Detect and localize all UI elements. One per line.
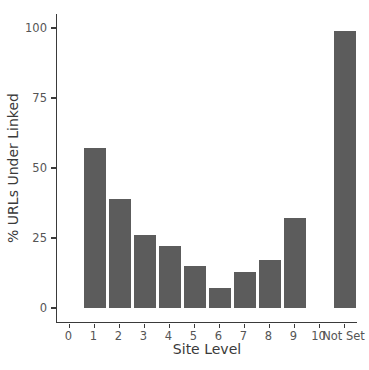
- x-tick-label: 3: [140, 331, 147, 343]
- x-tick-mark: [144, 324, 146, 328]
- x-tick-mark: [219, 324, 221, 328]
- x-tick-mark: [69, 324, 71, 328]
- bar-level-7: [234, 272, 256, 308]
- bar-level-1: [84, 148, 106, 308]
- x-tick-mark: [244, 324, 246, 328]
- y-tick-label: 75: [7, 93, 47, 105]
- bar-level-6: [209, 288, 231, 308]
- x-tick-label: 6: [215, 331, 222, 343]
- x-tick-mark: [319, 324, 321, 328]
- y-tick-label: 50: [7, 163, 47, 175]
- x-tick-label: 7: [240, 331, 247, 343]
- plot-area: [56, 14, 357, 323]
- x-tick-label: Not Set: [322, 331, 365, 343]
- bar-level-4: [159, 246, 181, 308]
- bar-level-3: [134, 235, 156, 308]
- x-tick-mark: [194, 324, 196, 328]
- y-tick-mark: [51, 97, 56, 99]
- x-tick-mark: [294, 324, 296, 328]
- bar-level-2: [109, 199, 131, 308]
- bar-level-9: [284, 218, 306, 308]
- x-tick-label: 0: [65, 331, 72, 343]
- y-tick-mark: [51, 27, 56, 29]
- x-tick-label: 1: [90, 331, 97, 343]
- x-tick-mark: [169, 324, 171, 328]
- x-tick-label: 8: [265, 331, 272, 343]
- x-tick-label: 5: [190, 331, 197, 343]
- bar-level-not-set: [334, 31, 356, 308]
- x-tick-mark: [344, 324, 346, 328]
- y-tick-mark: [51, 167, 56, 169]
- x-axis-label: Site Level: [173, 341, 241, 357]
- bar-chart-figure: % URLs Under Linked Site Level 025507510…: [0, 0, 369, 370]
- x-tick-label: 2: [115, 331, 122, 343]
- y-tick-mark: [51, 237, 56, 239]
- bar-level-5: [184, 266, 206, 308]
- x-tick-mark: [269, 324, 271, 328]
- y-tick-label: 25: [7, 233, 47, 245]
- bar-level-8: [259, 260, 281, 308]
- x-tick-mark: [94, 324, 96, 328]
- y-tick-mark: [51, 307, 56, 309]
- x-tick-mark: [119, 324, 121, 328]
- y-tick-label: 0: [7, 303, 47, 315]
- x-tick-label: 9: [290, 331, 297, 343]
- y-tick-label: 100: [7, 23, 47, 35]
- x-tick-label: 4: [165, 331, 172, 343]
